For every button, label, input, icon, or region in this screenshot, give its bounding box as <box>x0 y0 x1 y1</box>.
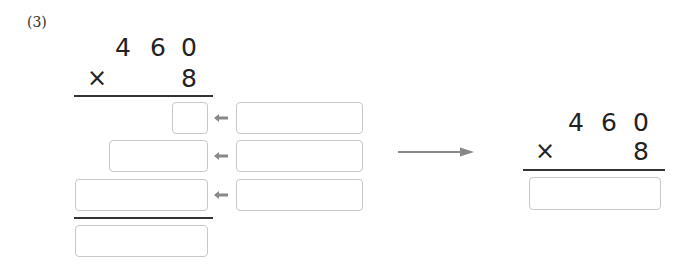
multiplier-digit: 8 <box>179 66 199 91</box>
sum-rule <box>74 217 213 219</box>
partial-box-right-3[interactable] <box>236 179 363 211</box>
result-multiplicand-digit-ones: 0 <box>631 110 651 135</box>
left-arrow-icon <box>214 152 228 160</box>
partial-box-left-1[interactable] <box>172 102 208 134</box>
left-arrow-icon <box>214 114 228 122</box>
times-symbol: × <box>87 66 107 91</box>
partial-box-right-2[interactable] <box>236 140 363 172</box>
result-times-symbol: × <box>535 139 555 164</box>
result-multiplier-digit: 8 <box>631 139 651 164</box>
product-rule <box>74 95 213 97</box>
result-rule <box>523 169 665 171</box>
result-multiplicand-digit-tens: 6 <box>599 110 619 135</box>
multiplicand-digit-ones: 0 <box>179 35 199 60</box>
partial-box-left-2[interactable] <box>109 140 208 172</box>
answer-box[interactable] <box>529 177 661 210</box>
right-arrow-icon <box>398 147 474 157</box>
problem-label: (3) <box>27 14 47 30</box>
multiplicand-digit-hundreds: 4 <box>113 35 133 60</box>
partial-box-left-3[interactable] <box>75 179 208 211</box>
left-arrow-icon <box>214 191 228 199</box>
result-multiplicand-digit-hundreds: 4 <box>566 110 586 135</box>
multiplicand-digit-tens: 6 <box>148 35 168 60</box>
partial-box-right-1[interactable] <box>236 102 363 134</box>
sum-box[interactable] <box>75 225 208 257</box>
